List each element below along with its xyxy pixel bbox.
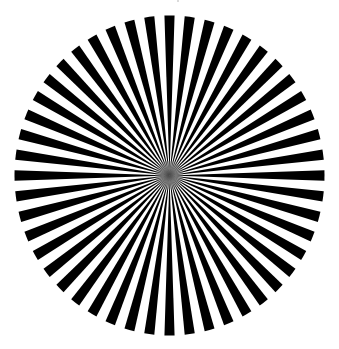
artifact-dot xyxy=(177,0,179,2)
siemens-star-figure xyxy=(0,0,339,349)
star-spokes xyxy=(14,16,324,336)
